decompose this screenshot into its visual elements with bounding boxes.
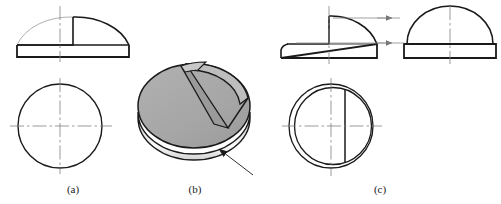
panel-c bbox=[281, 6, 496, 176]
panel-b bbox=[138, 62, 253, 175]
construction-arc-left bbox=[17, 17, 73, 45]
technical-drawing-figure: (a) (b) (c) bbox=[0, 0, 501, 204]
leader-arrow bbox=[219, 149, 253, 175]
figure-canvas bbox=[0, 0, 501, 204]
panel-c-projection-arrows bbox=[296, 18, 404, 43]
base-band-outline bbox=[17, 45, 129, 57]
caption-c: (c) bbox=[350, 183, 410, 195]
front-notch-arc bbox=[329, 16, 377, 44]
panel-a bbox=[10, 6, 129, 174]
panel-a-front-view bbox=[17, 17, 129, 57]
caption-b: (b) bbox=[165, 183, 225, 195]
front-left-shoulder bbox=[281, 44, 288, 58]
dome-arc-right bbox=[73, 17, 129, 45]
caption-a: (a) bbox=[43, 183, 103, 195]
